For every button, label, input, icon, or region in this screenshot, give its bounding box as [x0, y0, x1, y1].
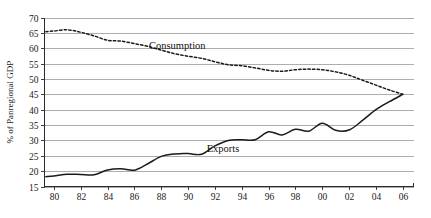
y-tick-label-55: 55 — [29, 60, 39, 70]
y-tick-label-25: 25 — [29, 152, 39, 162]
y-tick-label-35: 35 — [29, 121, 39, 131]
series-label-consumption: Consumption — [149, 40, 206, 51]
y-tick-label-20: 20 — [29, 167, 39, 177]
x-tick-label-1998: 98 — [291, 192, 301, 202]
y-tick-label-50: 50 — [29, 75, 39, 85]
x-tick-label-1984: 84 — [104, 192, 114, 202]
y-tick-label-70: 70 — [29, 14, 39, 24]
x-tick-label-1994: 94 — [238, 192, 248, 202]
x-tick-label-1992: 92 — [211, 192, 221, 202]
y-tick-label-65: 65 — [29, 29, 39, 39]
y-tick-label-45: 45 — [29, 90, 39, 100]
y-tick-label-15: 15 — [29, 183, 39, 193]
x-tick-label-2004: 04 — [372, 192, 382, 202]
series-label-exports: Exports — [207, 143, 240, 154]
line-chart: 706560555045403530252015 808284868890929… — [0, 0, 431, 218]
x-tick-label-1988: 88 — [157, 192, 167, 202]
chart-background — [0, 0, 431, 218]
x-tick-label-1990: 90 — [184, 192, 194, 202]
x-tick-label-1982: 82 — [77, 192, 87, 202]
y-tick-label-30: 30 — [29, 136, 39, 146]
x-tick-label-2000: 00 — [318, 192, 328, 202]
y-tick-label-40: 40 — [29, 106, 39, 116]
y-axis-title: % of Panregional GDP — [5, 61, 15, 144]
x-tick-label-2002: 02 — [345, 192, 355, 202]
x-tick-label-1980: 80 — [50, 192, 60, 202]
chart-container: 706560555045403530252015 808284868890929… — [0, 0, 431, 218]
x-tick-label-2006: 06 — [399, 192, 409, 202]
x-tick-label-1986: 86 — [130, 192, 140, 202]
y-tick-label-60: 60 — [29, 44, 39, 54]
x-tick-label-1996: 96 — [265, 192, 275, 202]
